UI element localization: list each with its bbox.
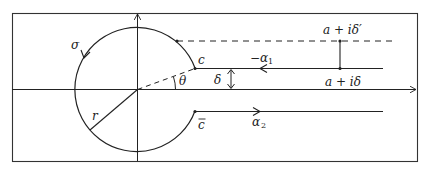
label-c: c [198, 53, 205, 67]
point-a-delta [338, 67, 341, 70]
label-minus-alpha1-sub: 1 [268, 57, 273, 66]
label-sigma: σ [71, 38, 80, 52]
label-a-plus-i-delta-prime: a + iδ′ [323, 23, 362, 37]
label-minus-alpha1: −α [250, 51, 268, 65]
label-alpha2-sub: 2 [261, 121, 266, 130]
theta-arc [174, 77, 176, 90]
point-c-bar [193, 110, 196, 113]
label-delta: δ [214, 73, 221, 87]
label-r: r [92, 109, 99, 123]
label-a-plus-i-delta: a + iδ [325, 75, 361, 89]
contour-diagram: σ c c θ δ r −α 1 α 2 a + iδ′ a + iδ [0, 0, 428, 169]
point-a-delta-prime [338, 39, 341, 42]
label-c-bar: c [198, 118, 205, 132]
label-alpha2: α [252, 115, 260, 129]
dashed-radius-theta [138, 69, 196, 90]
label-theta: θ [179, 74, 187, 88]
point-arc-top [175, 39, 178, 42]
